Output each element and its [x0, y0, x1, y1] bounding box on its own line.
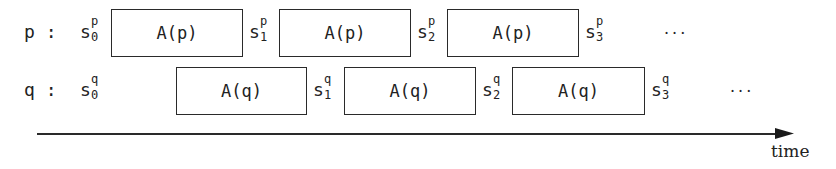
time-axis-arrow: [0, 0, 836, 169]
time-axis-label: time: [771, 141, 809, 161]
arrow-head-icon: [775, 128, 794, 139]
